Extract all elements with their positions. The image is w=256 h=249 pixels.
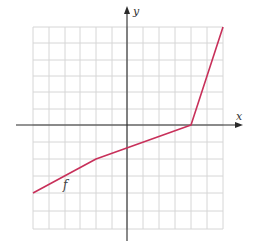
y-axis-label: y bbox=[132, 5, 140, 18]
x-axis-label: x bbox=[236, 110, 243, 123]
function-graph: x y f bbox=[0, 0, 256, 249]
function-label: f bbox=[62, 178, 70, 192]
function-f-line bbox=[33, 27, 223, 193]
y-axis-arrow-icon bbox=[124, 6, 130, 14]
axes: x y bbox=[16, 5, 243, 241]
grid bbox=[33, 27, 223, 229]
